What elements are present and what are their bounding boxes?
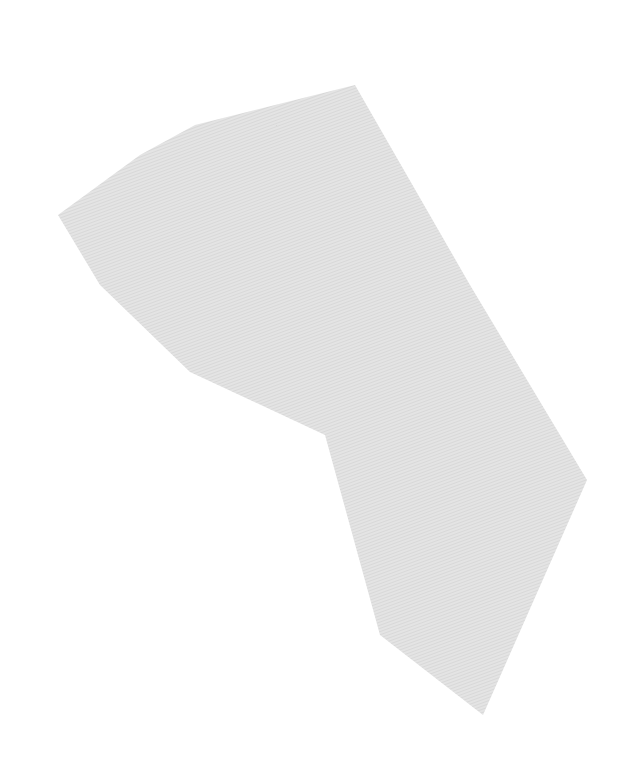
gray-textured-shape: [58, 85, 587, 715]
canvas: [0, 0, 642, 782]
